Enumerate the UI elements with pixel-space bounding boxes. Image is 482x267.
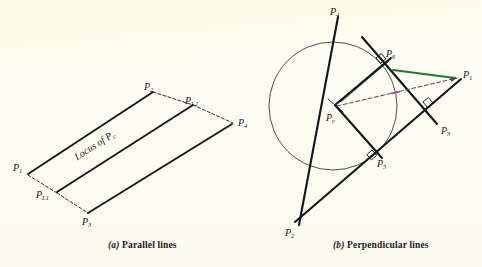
point-label-subscript: 4 xyxy=(244,122,247,129)
panel-a-geometry xyxy=(28,92,233,213)
caption-b-prefix: (b) xyxy=(333,240,345,250)
segment-p1-p2 xyxy=(28,92,153,174)
point-label-subscript: 1 xyxy=(19,167,22,174)
dash-midpoint-accent xyxy=(392,92,399,94)
point-label-p4: P4 xyxy=(238,118,247,128)
caption-a-prefix: (a) xyxy=(108,240,120,250)
point-label-subscript: 3 xyxy=(88,221,91,228)
point-label-subscript: L1 xyxy=(42,194,49,201)
point-label-pl1: PL1 xyxy=(36,190,49,200)
point-label-p1: P1 xyxy=(13,163,22,173)
point-label-p3: P3 xyxy=(441,126,450,136)
caption-a-text: Parallel lines xyxy=(122,240,177,250)
point-label-p3: P3 xyxy=(82,217,91,227)
point-label-p5: P5 xyxy=(377,159,386,169)
point-label-subscript: 2 xyxy=(291,232,294,239)
panel-b-geometry xyxy=(269,17,461,225)
point-label-subscript: c xyxy=(332,117,335,124)
point-label-subscript: 1 xyxy=(469,74,472,81)
figure-page: P1P2P3P4PL1PL2 Locus of Pc (a) Parallel … xyxy=(0,0,482,267)
point-label-pc: Pc xyxy=(326,113,335,123)
point-label-p4: P4 xyxy=(330,7,339,17)
figure-canvas xyxy=(0,0,482,267)
chord-pc-p5 xyxy=(335,105,382,158)
line-p6-p3 xyxy=(362,37,437,124)
caption-perpendicular-lines: (b) Perpendicular lines xyxy=(333,240,429,250)
point-label-p1: P1 xyxy=(463,70,472,80)
point-label-subscript: L2 xyxy=(191,100,198,107)
point-label-subscript: 4 xyxy=(336,11,339,18)
point-label-subscript: 6 xyxy=(392,53,395,60)
caption-b-text: Perpendicular lines xyxy=(347,240,429,250)
line-p2-p1 xyxy=(295,79,461,222)
point-label-p2: P2 xyxy=(144,82,153,92)
dash-pl2-p4 xyxy=(193,105,233,123)
caption-parallel-lines: (a) Parallel lines xyxy=(108,240,177,250)
point-label-pl2: PL2 xyxy=(185,96,198,106)
point-label-subscript: 3 xyxy=(447,130,450,137)
point-label-p2: P2 xyxy=(285,228,294,238)
dash-pl1-p3 xyxy=(57,193,88,213)
point-label-subscript: 5 xyxy=(383,163,386,170)
green-p6-p1 xyxy=(393,70,455,78)
point-label-subscript: 2 xyxy=(150,86,153,93)
chord-pc-p6 xyxy=(335,58,391,105)
point-label-p6: P6 xyxy=(386,49,395,59)
